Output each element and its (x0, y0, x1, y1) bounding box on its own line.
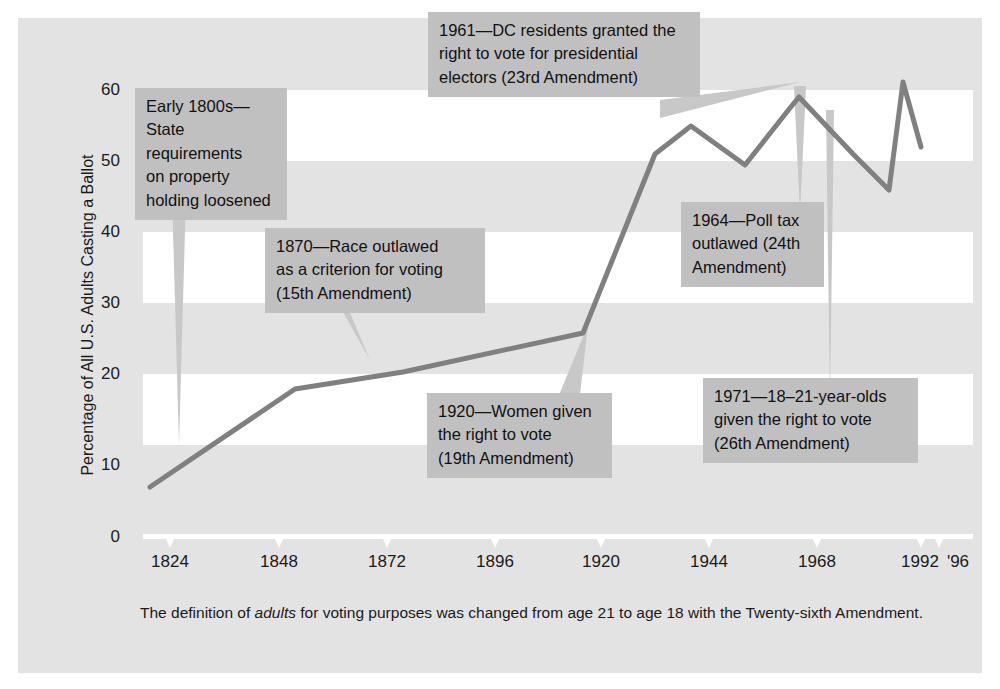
xtick-label-1920: 1920 (582, 552, 620, 572)
footnote-emphasis: adults (255, 604, 296, 621)
xtick-mark-1992 (917, 539, 925, 548)
ytick-0: 0 (80, 527, 120, 547)
footnote-part2: for voting purposes was changed from age… (296, 604, 923, 621)
x-axis-line (143, 534, 973, 539)
xtick-label-1848: 1848 (260, 552, 298, 572)
xtick-mark-1996 (935, 539, 943, 548)
xtick-mark-1872 (383, 539, 391, 548)
y-axis-label-wrap: Percentage of All U.S. Adults Casting a … (58, 78, 88, 528)
xtick-mark-1896 (491, 539, 499, 548)
callout-1870-race[interactable]: 1870—Race outlawed as a criterion for vo… (265, 228, 485, 313)
chart-figure: 60 50 40 30 20 10 0 Percentage of All U.… (0, 0, 1000, 689)
callout-early-1800s[interactable]: Early 1800s—State requirements on proper… (135, 88, 287, 220)
xtick-label-1824: 1824 (151, 552, 189, 572)
xtick-mark-1920 (597, 539, 605, 548)
xtick-mark-1848 (275, 539, 283, 548)
footnote-part1: The definition of (140, 604, 255, 621)
xtick-label-1896: 1896 (476, 552, 514, 572)
xtick-mark-1824 (166, 539, 174, 548)
xtick-label-1944: 1944 (690, 552, 728, 572)
y-axis-label: Percentage of All U.S. Adults Casting a … (79, 100, 97, 530)
callout-1964-poll-tax[interactable]: 1964—Poll tax outlawed (24th Amendment) (681, 202, 824, 287)
callout-1961-dc[interactable]: 1961—DC residents granted the right to v… (428, 12, 700, 97)
xtick-mark-1968 (813, 539, 821, 548)
xtick-label-1872: 1872 (368, 552, 406, 572)
xtick-label-1992: 1992 (901, 552, 939, 572)
footnote: The definition of adults for voting purp… (140, 600, 930, 626)
xtick-mark-1944 (705, 539, 713, 548)
xtick-label-1996: '96 (947, 552, 969, 572)
callout-1971-18-21[interactable]: 1971—18–21-year-olds given the right to … (703, 378, 918, 463)
xtick-label-1968: 1968 (798, 552, 836, 572)
callout-1920-women[interactable]: 1920—Women given the right to vote (19th… (427, 393, 612, 478)
